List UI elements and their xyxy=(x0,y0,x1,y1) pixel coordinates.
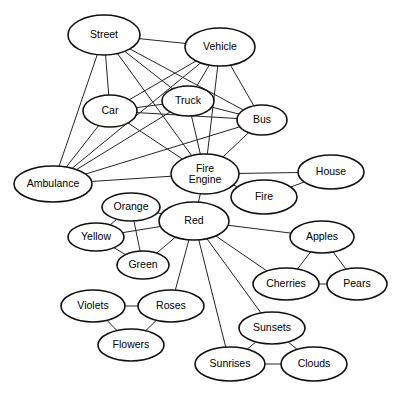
edge-red-cherries xyxy=(216,236,267,271)
edge-red-yellow xyxy=(123,226,161,232)
node-layer: StreetVehicleCarTruckBusAmbulanceFireEng… xyxy=(14,15,387,381)
edge-bus-fire-engine xyxy=(223,133,249,157)
node-label-ambulance: Ambulance xyxy=(27,177,80,189)
edge-orange-green xyxy=(134,221,140,251)
node-violets[interactable]: Violets xyxy=(61,290,125,322)
edge-fire-engine-house xyxy=(239,173,298,174)
edge-red-green xyxy=(157,237,176,253)
edge-sunsets-sunrises xyxy=(247,342,255,349)
node-label-vehicle: Vehicle xyxy=(203,40,237,52)
node-label-clouds: Clouds xyxy=(298,357,331,369)
node-label-fire: Fire xyxy=(255,190,273,202)
node-red[interactable]: Red xyxy=(159,202,229,240)
node-label-pears: Pears xyxy=(343,277,370,289)
edge-truck-fire-engine xyxy=(191,116,200,154)
node-label-apples: Apples xyxy=(306,230,338,242)
node-label-flowers: Flowers xyxy=(113,338,150,350)
edge-vehicle-truck xyxy=(196,65,209,87)
node-roses[interactable]: Roses xyxy=(138,290,204,322)
node-bus[interactable]: Bus xyxy=(237,105,287,135)
node-label-house: House xyxy=(316,165,347,177)
node-label-violets: Violets xyxy=(77,299,108,311)
node-label-street: Street xyxy=(90,28,118,40)
node-sunsets[interactable]: Sunsets xyxy=(239,312,305,344)
edge-truck-bus xyxy=(212,107,239,114)
node-label-sunrises: Sunrises xyxy=(210,357,251,369)
node-house[interactable]: House xyxy=(298,155,364,189)
node-clouds[interactable]: Clouds xyxy=(281,347,347,381)
edge-car-fire-engine xyxy=(128,123,182,159)
edge-apples-pears xyxy=(333,252,346,269)
edge-red-sunrises xyxy=(199,240,226,347)
edge-violets-flowers xyxy=(107,320,117,330)
node-label-roses: Roses xyxy=(156,299,186,311)
edge-street-car xyxy=(106,55,109,95)
edge-yellow-green xyxy=(114,248,126,255)
node-label-bus: Bus xyxy=(253,113,271,125)
edge-apples-cherries xyxy=(297,252,310,269)
node-label-orange: Orange xyxy=(113,200,148,212)
node-label-sunsets: Sunsets xyxy=(253,321,291,333)
edge-sunsets-clouds xyxy=(288,342,297,350)
edge-fire-engine-red xyxy=(198,194,200,202)
node-label-truck: Truck xyxy=(175,94,202,106)
node-flowers[interactable]: Flowers xyxy=(98,329,164,361)
node-label-yellow: Yellow xyxy=(81,230,111,242)
node-sunrises[interactable]: Sunrises xyxy=(195,347,265,381)
node-pears[interactable]: Pears xyxy=(327,268,387,300)
node-car[interactable]: Car xyxy=(83,95,137,127)
edge-street-vehicle xyxy=(139,39,185,44)
edge-fire-house xyxy=(291,182,305,187)
edge-red-sunsets xyxy=(207,239,261,313)
node-cherries[interactable]: Cherries xyxy=(253,268,319,300)
node-label-red: Red xyxy=(184,214,203,226)
semantic-network-graph: StreetVehicleCarTruckBusAmbulanceFireEng… xyxy=(0,0,410,396)
node-orange[interactable]: Orange xyxy=(102,193,160,221)
node-label-green: Green xyxy=(128,258,157,270)
node-apples[interactable]: Apples xyxy=(290,221,354,253)
edge-red-roses xyxy=(175,240,189,290)
node-ambulance[interactable]: Ambulance xyxy=(14,166,92,202)
node-label-car: Car xyxy=(102,104,119,116)
figure-caption xyxy=(4,386,334,395)
edge-ambulance-fire-engine xyxy=(92,176,172,181)
edge-street-truck xyxy=(125,51,173,89)
diagram-canvas: StreetVehicleCarTruckBusAmbulanceFireEng… xyxy=(0,0,410,396)
edge-orange-yellow xyxy=(110,219,117,225)
node-yellow[interactable]: Yellow xyxy=(68,223,124,251)
node-street[interactable]: Street xyxy=(68,15,140,55)
node-vehicle[interactable]: Vehicle xyxy=(185,28,255,66)
edge-red-apples xyxy=(228,225,291,233)
edge-vehicle-bus xyxy=(230,65,253,106)
node-truck[interactable]: Truck xyxy=(162,86,214,116)
node-fire[interactable]: Fire xyxy=(231,180,297,214)
edge-roses-flowers xyxy=(146,320,157,330)
node-green[interactable]: Green xyxy=(117,251,169,279)
node-label-cherries: Cherries xyxy=(266,277,306,289)
node-fire-engine[interactable]: FireEngine xyxy=(171,154,239,194)
